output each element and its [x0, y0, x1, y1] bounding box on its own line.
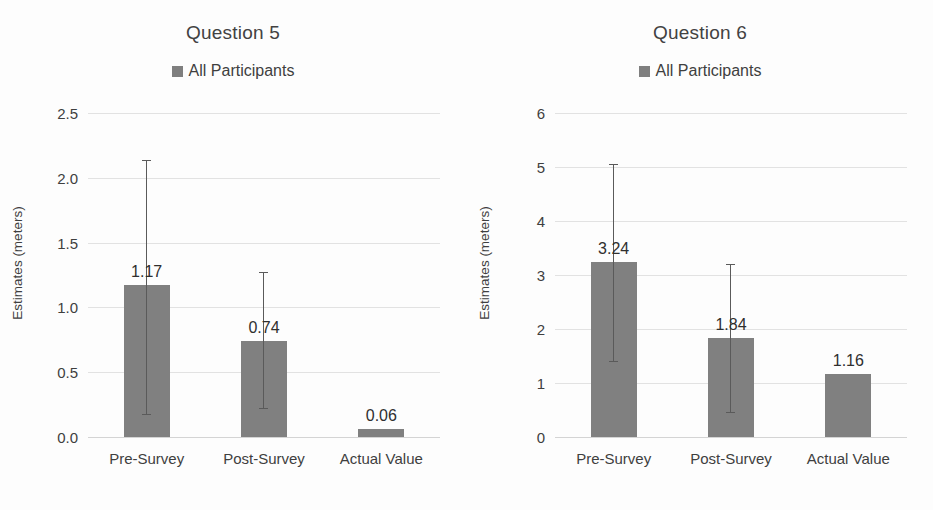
y-axis-tick-label: 1.0	[57, 299, 78, 316]
bar-value-label: 0.06	[366, 407, 397, 425]
bar-value-label: 1.16	[833, 352, 864, 370]
bar-value-label: 1.84	[715, 316, 746, 334]
legend-label: All Participants	[189, 62, 295, 80]
legend-swatch-icon	[172, 66, 183, 77]
bar-group: 1.84Post-Survey	[672, 113, 789, 437]
legend-swatch-icon	[639, 66, 650, 77]
error-bar-cap-lower	[259, 408, 268, 409]
error-bar-cap-upper	[142, 160, 151, 161]
y-axis-tick-label: 6	[537, 105, 545, 122]
error-bar-cap-upper	[609, 164, 618, 165]
y-axis-tick-label: 2.0	[57, 169, 78, 186]
error-bar	[263, 272, 264, 408]
y-axis-tick-label: 0.0	[57, 429, 78, 446]
error-bar	[146, 160, 147, 414]
figure-container: Question 5 All Participants Estimates (m…	[0, 0, 933, 510]
plot-area-question-5: 0.00.51.01.52.02.5 1.17Pre-Survey0.74Pos…	[88, 113, 440, 437]
bar	[825, 374, 871, 437]
chart-legend: All Participants	[467, 62, 933, 80]
gridline: 0	[555, 437, 907, 438]
bars-group: 3.24Pre-Survey1.84Post-Survey1.16Actual …	[555, 113, 907, 437]
y-axis-tick-label: 5	[537, 159, 545, 176]
chart-title: Question 5	[0, 22, 466, 44]
x-axis-tick-label: Pre-Survey	[576, 450, 651, 467]
chart-panel-question-5: Question 5 All Participants Estimates (m…	[0, 0, 466, 510]
error-bar	[730, 264, 731, 411]
bar-value-label: 0.74	[248, 319, 279, 337]
bar-group: 1.17Pre-Survey	[88, 113, 205, 437]
legend-label: All Participants	[656, 62, 762, 80]
bar	[358, 429, 404, 437]
bar-group: 3.24Pre-Survey	[555, 113, 672, 437]
plot-area-question-6: 0123456 3.24Pre-Survey1.84Post-Survey1.1…	[555, 113, 907, 437]
error-bar-cap-upper	[726, 264, 735, 265]
error-bar-cap-lower	[726, 412, 735, 413]
y-axis-tick-label: 0.5	[57, 364, 78, 381]
chart-title: Question 6	[467, 22, 933, 44]
bar-group: 0.74Post-Survey	[205, 113, 322, 437]
error-bar	[613, 164, 614, 361]
bar-value-label: 1.17	[131, 263, 162, 281]
bars-group: 1.17Pre-Survey0.74Post-Survey0.06Actual …	[88, 113, 440, 437]
x-axis-tick-label: Pre-Survey	[109, 450, 184, 467]
y-axis-tick-label: 0	[537, 429, 545, 446]
y-axis-tick-label: 1.5	[57, 234, 78, 251]
x-axis-tick-label: Post-Survey	[690, 450, 772, 467]
error-bar-cap-lower	[142, 414, 151, 415]
y-axis-tick-label: 4	[537, 213, 545, 230]
gridline: 0.0	[88, 437, 440, 438]
chart-legend: All Participants	[0, 62, 466, 80]
chart-panel-question-6: Question 6 All Participants Estimates (m…	[467, 0, 933, 510]
bar-group: 1.16Actual Value	[790, 113, 907, 437]
error-bar-cap-upper	[259, 272, 268, 273]
x-axis-tick-label: Actual Value	[807, 450, 890, 467]
bar-value-label: 3.24	[598, 240, 629, 258]
y-axis-tick-label: 2.5	[57, 105, 78, 122]
x-axis-tick-label: Actual Value	[340, 450, 423, 467]
x-axis-tick-label: Post-Survey	[223, 450, 305, 467]
bar-group: 0.06Actual Value	[323, 113, 440, 437]
y-axis-tick-label: 3	[537, 267, 545, 284]
y-axis-label: Estimates (meters)	[477, 88, 503, 438]
y-axis-tick-label: 2	[537, 321, 545, 338]
y-axis-label: Estimates (meters)	[10, 88, 36, 438]
error-bar-cap-lower	[609, 361, 618, 362]
y-axis-tick-label: 1	[537, 375, 545, 392]
